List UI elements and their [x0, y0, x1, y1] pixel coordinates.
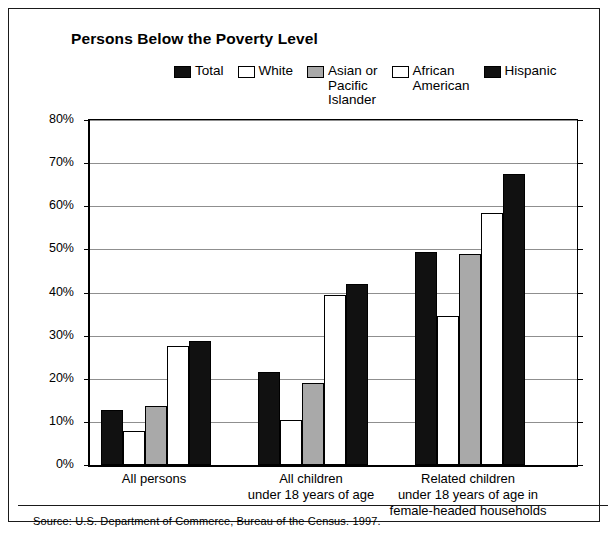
chart-legend: TotalWhiteAsian or Pacific IslanderAfric… [174, 64, 574, 108]
y-axis-tick-label: 40% [49, 285, 74, 299]
legend-label: Total [195, 64, 224, 79]
bar-group [258, 120, 368, 465]
legend-item: Hispanic [484, 64, 557, 79]
y-axis-tick [84, 465, 90, 466]
y-axis-tick-right [577, 336, 583, 337]
legend-label: Asian or Pacific Islander [328, 64, 378, 108]
bar [280, 420, 302, 465]
y-axis-tick-right [577, 379, 583, 380]
y-axis-tick-right [577, 120, 583, 121]
y-axis-tick-label: 20% [49, 371, 74, 385]
bar-group [101, 120, 211, 465]
y-axis-tick-label: 0% [56, 457, 74, 471]
legend-swatch-icon [392, 66, 409, 78]
y-axis-labels: 0%10%20%30%40%50%60%70%80% [9, 119, 82, 464]
bar [481, 213, 503, 465]
plot-area [88, 119, 578, 467]
legend-swatch-icon [174, 66, 191, 78]
bar [503, 174, 525, 465]
bar [258, 372, 280, 465]
legend-swatch-icon [238, 66, 255, 78]
bar [101, 410, 123, 465]
bar [167, 346, 189, 465]
legend-label: White [259, 64, 294, 79]
bar [415, 252, 437, 465]
legend-swatch-icon [484, 66, 501, 78]
bar [123, 431, 145, 466]
bar [346, 284, 368, 465]
bar [302, 383, 324, 465]
y-axis-tick-label: 30% [49, 328, 74, 342]
bar [324, 295, 346, 465]
legend-item: Asian or Pacific Islander [307, 64, 378, 108]
bar [189, 341, 211, 465]
bar [145, 406, 167, 465]
y-axis-tick-label: 10% [49, 414, 74, 428]
y-axis-tick-right [577, 206, 583, 207]
y-axis-tick-right [577, 422, 583, 423]
y-axis-tick-label: 80% [49, 112, 74, 126]
legend-item: Total [174, 64, 224, 79]
legend-swatch-icon [307, 66, 324, 78]
legend-item: African American [392, 64, 470, 93]
legend-item: White [238, 64, 294, 79]
y-axis-tick-right [577, 163, 583, 164]
bars-layer [90, 120, 577, 465]
legend-label: African American [413, 64, 470, 93]
y-axis-tick-right [577, 249, 583, 250]
y-axis-tick-label: 70% [49, 155, 74, 169]
y-axis-tick-right [577, 293, 583, 294]
legend-label: Hispanic [505, 64, 557, 79]
x-axis-category-label: Related children under 18 years of age i… [363, 471, 573, 519]
bar-group [415, 120, 525, 465]
y-axis-tick-label: 60% [49, 198, 74, 212]
bar [459, 254, 481, 465]
y-axis-tick-label: 50% [49, 241, 74, 255]
y-axis-tick-right [577, 465, 583, 466]
source-note: Source: U.S. Department of Commerce, Bur… [33, 515, 381, 527]
source-divider [18, 505, 608, 506]
bar [437, 316, 459, 465]
chart-title: Persons Below the Poverty Level [71, 30, 318, 48]
figure-frame: Persons Below the Poverty Level TotalWhi… [8, 8, 600, 522]
